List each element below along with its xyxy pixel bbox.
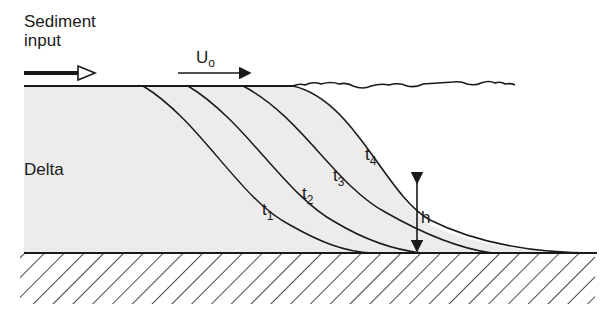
velocity-label: Uo — [196, 48, 215, 69]
height-label: h — [421, 208, 430, 227]
sediment-input-arrow-head — [78, 66, 95, 80]
t2-label: t2 — [302, 184, 313, 205]
velocity-symbol: U — [196, 48, 208, 67]
t4-subscript: 4 — [370, 154, 377, 168]
sediment-label-line1: Sediment — [24, 12, 96, 31]
velocity-subscript: o — [208, 56, 215, 70]
basement-hatch — [20, 254, 595, 304]
t4-label: t4 — [365, 145, 376, 166]
delta-body — [24, 86, 595, 253]
water-surface — [293, 82, 515, 89]
t3-label: t3 — [333, 166, 344, 187]
t3-subscript: 3 — [338, 175, 345, 189]
sediment-label-line2: input — [24, 31, 96, 50]
delta-label: Delta — [24, 160, 64, 179]
t1-subscript: 1 — [267, 209, 274, 223]
t2-subscript: 2 — [307, 193, 314, 207]
sediment-input-label: Sediment input — [24, 12, 96, 50]
t1-label: t1 — [262, 200, 273, 221]
